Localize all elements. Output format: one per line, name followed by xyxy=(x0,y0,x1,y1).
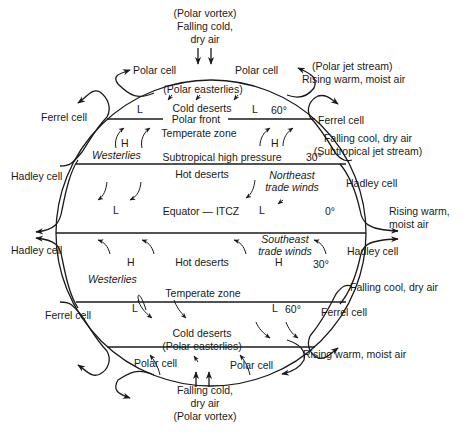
north-high-right: H xyxy=(271,137,279,149)
subtropical-high-label: Subtropical high pressure xyxy=(162,151,281,163)
atmospheric-circulation-diagram: (Polar vortex) Falling cold, dry air Pol… xyxy=(0,0,475,436)
sw-ferrel-cell-label: Ferrel cell xyxy=(45,309,91,321)
sw-polar-cell-arrow xyxy=(116,371,154,398)
equator-lat-0: 0° xyxy=(325,205,335,217)
equator-rising-line2: moist air xyxy=(389,218,429,230)
south-lat-60: 60° xyxy=(285,303,301,315)
south-vortex-label: (Polar vortex) xyxy=(173,410,236,422)
ne-rising-label: Rising warm, moist air xyxy=(302,73,406,85)
south-temperate-zone: Temperate zone xyxy=(165,287,240,299)
south-cold-deserts: Cold deserts xyxy=(173,327,232,339)
north-westerlies: Westerlies xyxy=(92,149,142,161)
north-low-eq-left: L xyxy=(113,204,119,216)
ne-hadley-cell-label: Hadley cell xyxy=(346,177,397,189)
north-lat-60: 60° xyxy=(271,104,287,116)
north-falling-line2: dry air xyxy=(190,33,220,45)
nw-polar-cell-label: Polar cell xyxy=(133,64,176,76)
north-falling-line1: Falling cold, xyxy=(177,20,233,32)
equator-rising-line1: Rising warm, xyxy=(389,205,450,217)
north-low-eq-right: L xyxy=(259,204,265,216)
south-falling-line1: Falling cold, xyxy=(177,384,233,396)
south-low-left: L xyxy=(132,302,138,314)
south-high-right: H xyxy=(275,256,283,268)
north-lat-30: 30° xyxy=(306,151,322,163)
se-hadley-cell-label: Hadley cell xyxy=(347,245,398,257)
se-rising-label: Rising warm, moist air xyxy=(303,348,407,360)
polar-jet-stream-label: (Polar jet stream) xyxy=(312,60,393,72)
ne-trade-line2: trade winds xyxy=(265,181,319,193)
south-falling-line2: dry air xyxy=(190,397,220,409)
north-high-left: H xyxy=(121,137,129,149)
se-ferrel-cell-label: Ferrel cell xyxy=(321,306,367,318)
north-low-right: L xyxy=(252,103,258,115)
polar-front-label: Polar front xyxy=(172,113,221,125)
nw-ferrel-cell-label: Ferrel cell xyxy=(41,111,87,123)
south-polar-easterlies: (Polar easterlies) xyxy=(162,340,241,352)
south-lat-30: 30° xyxy=(313,258,329,270)
se-falling-cool-label: Falling cool, dry air xyxy=(350,281,439,293)
nw-hadley-cell-label: Hadley cell xyxy=(11,170,62,182)
north-hot-deserts: Hot deserts xyxy=(175,168,229,180)
se-trade-line2: trade winds xyxy=(258,245,312,257)
ne-falling-cool-label: Falling cool, dry air xyxy=(324,132,413,144)
north-polar-easterlies: (Polar easterlies) xyxy=(163,83,242,95)
south-low-right: L xyxy=(272,302,278,314)
ne-ferrel-cell-label: Ferrel cell xyxy=(318,114,364,126)
sw-hadley-cell-label: Hadley cell xyxy=(11,244,62,256)
south-hot-deserts: Hot deserts xyxy=(175,256,229,268)
ne-polar-cell-label: Polar cell xyxy=(235,64,278,76)
south-high-left: H xyxy=(127,256,135,268)
ne-trade-line1: Northeast xyxy=(269,169,316,181)
sw-polar-cell-label: Polar cell xyxy=(134,357,177,369)
se-polar-cell-label: Polar cell xyxy=(230,359,273,371)
subtropical-jet-label: (Subtropical jet stream) xyxy=(314,145,423,157)
equator-itcz-label: Equator — ITCZ xyxy=(163,205,240,217)
se-trade-line1: Southeast xyxy=(261,233,309,245)
north-vortex-label: (Polar vortex) xyxy=(173,7,236,19)
north-temperate-zone: Temperate zone xyxy=(161,127,236,139)
north-low-left: L xyxy=(137,103,143,115)
sw-ferrel-cell-arrow xyxy=(78,351,109,375)
south-westerlies: Westerlies xyxy=(88,273,138,285)
